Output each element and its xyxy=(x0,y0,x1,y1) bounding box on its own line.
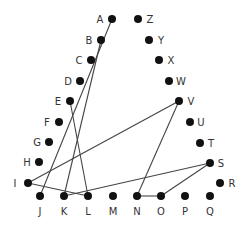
node-dot xyxy=(97,36,105,44)
node-dot xyxy=(133,192,141,200)
node-label: R xyxy=(229,178,236,189)
node-label: A xyxy=(97,14,104,25)
node-label: U xyxy=(197,117,204,128)
node-i: I xyxy=(14,178,32,189)
node-x: X xyxy=(155,55,175,66)
node-dot xyxy=(145,36,153,44)
node-dot xyxy=(55,118,63,126)
node-s: S xyxy=(206,158,224,169)
edge-v-n xyxy=(137,101,179,196)
node-dot xyxy=(216,179,224,187)
node-l: L xyxy=(84,192,92,217)
node-f: F xyxy=(44,117,63,128)
edge-o-s xyxy=(161,163,210,196)
node-g: G xyxy=(33,137,53,148)
node-label: I xyxy=(14,178,17,189)
node-label: O xyxy=(157,206,165,217)
node-dot xyxy=(87,56,95,64)
node-dot xyxy=(175,97,183,105)
node-label: X xyxy=(168,55,175,66)
node-j: J xyxy=(36,192,44,217)
node-r: R xyxy=(216,178,236,189)
node-dot xyxy=(109,192,117,200)
node-p: P xyxy=(181,192,189,217)
node-label: H xyxy=(23,157,31,168)
node-label: C xyxy=(76,55,83,66)
node-h: H xyxy=(23,157,43,168)
node-dot xyxy=(108,15,116,23)
node-label: E xyxy=(55,96,61,107)
edge-a-j xyxy=(40,19,112,196)
node-label: N xyxy=(133,206,140,217)
node-label: T xyxy=(207,138,215,149)
edge-b-k xyxy=(64,40,101,196)
node-dot xyxy=(35,158,43,166)
node-label: F xyxy=(44,117,50,128)
node-dot xyxy=(186,118,194,126)
node-dot xyxy=(206,159,214,167)
node-d: D xyxy=(64,76,84,87)
node-label: P xyxy=(182,206,188,217)
node-c: C xyxy=(76,55,95,66)
node-dot xyxy=(165,77,173,85)
node-v: V xyxy=(175,96,195,107)
node-dot xyxy=(76,77,84,85)
node-dot xyxy=(84,192,92,200)
node-label: B xyxy=(86,35,93,46)
node-label: V xyxy=(188,96,195,107)
node-label: J xyxy=(38,206,42,217)
node-z: Z xyxy=(134,14,154,25)
edge-k-s xyxy=(64,163,210,196)
node-dot xyxy=(134,15,142,23)
node-dot xyxy=(60,192,68,200)
node-label: D xyxy=(64,76,72,87)
node-dot xyxy=(45,138,53,146)
node-o: O xyxy=(157,192,165,217)
node-m: M xyxy=(109,192,118,217)
node-label: S xyxy=(218,158,224,169)
node-n: N xyxy=(133,192,141,217)
node-k: K xyxy=(60,192,68,217)
edges-layer xyxy=(28,19,210,196)
node-label: G xyxy=(33,137,41,148)
node-u: U xyxy=(186,117,205,128)
edge-e-l xyxy=(70,101,88,196)
node-dot xyxy=(206,192,214,200)
node-w: W xyxy=(165,76,186,87)
node-q: Q xyxy=(206,192,214,217)
node-label: Y xyxy=(157,35,165,46)
node-dot xyxy=(157,192,165,200)
node-t: T xyxy=(196,138,215,149)
node-a: A xyxy=(97,14,116,25)
node-dot xyxy=(66,97,74,105)
letter-graph: ABCDEFGHIJKLMNOPQRSTUVWXYZ xyxy=(0,0,249,230)
node-dot xyxy=(181,192,189,200)
node-y: Y xyxy=(145,35,165,46)
node-label: W xyxy=(176,76,186,87)
node-label: L xyxy=(85,206,91,217)
node-label: M xyxy=(109,206,118,217)
node-dot xyxy=(36,192,44,200)
node-dot xyxy=(196,139,204,147)
node-label: Q xyxy=(206,206,214,217)
node-label: K xyxy=(61,206,68,217)
node-dot xyxy=(24,179,32,187)
node-label: Z xyxy=(147,14,154,25)
node-dot xyxy=(155,56,163,64)
